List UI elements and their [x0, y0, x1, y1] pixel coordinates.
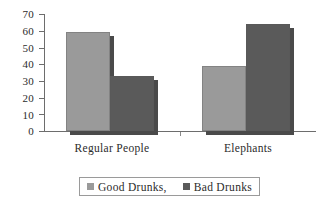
legend-entry-bad-drunks: Bad Drunks — [183, 181, 252, 193]
x-category-label-regular-people: Regular People — [44, 142, 180, 155]
bar-shadow-right — [154, 80, 158, 135]
bar-shadow-right — [290, 28, 294, 135]
y-tick-label-60: 60 — [4, 26, 34, 37]
y-tick-label-0: 0 — [4, 126, 34, 137]
y-tick-label-10: 10 — [4, 110, 34, 121]
y-tick-label-40: 40 — [4, 59, 34, 70]
bar-shadow-bottom — [250, 131, 294, 135]
x-category-label-elephants: Elephants — [180, 142, 316, 155]
bar-chart: 70 60 50 40 30 20 10 0 — [0, 0, 327, 203]
bar-regular-people-good-drunks — [66, 32, 110, 131]
y-tick-label-50: 50 — [4, 43, 34, 54]
legend-swatch-icon — [183, 183, 190, 190]
bar-shadow-bottom — [70, 131, 114, 135]
bar-elephants-bad-drunks — [246, 24, 290, 131]
bar-regular-people-bad-drunks — [110, 76, 154, 131]
bar-fill — [246, 24, 290, 131]
bar-elephants-good-drunks — [202, 66, 246, 131]
y-tick-label-20: 20 — [4, 93, 34, 104]
legend-label-good-drunks: Good Drunks, — [98, 181, 167, 193]
y-tick-label-30: 30 — [4, 76, 34, 87]
x-axis-group-separator-tick — [180, 132, 181, 136]
bar-fill — [202, 66, 246, 131]
legend-label-bad-drunks: Bad Drunks — [194, 181, 252, 193]
legend: Good Drunks, Bad Drunks — [79, 177, 260, 196]
plot-area — [44, 14, 316, 131]
y-tick-label-70: 70 — [4, 9, 34, 20]
bar-shadow-bottom — [206, 131, 250, 135]
bar-fill — [110, 76, 154, 131]
legend-entry-good-drunks: Good Drunks, — [87, 181, 167, 193]
legend-swatch-icon — [87, 183, 94, 190]
bar-fill — [66, 32, 110, 131]
bar-shadow-bottom — [114, 131, 158, 135]
